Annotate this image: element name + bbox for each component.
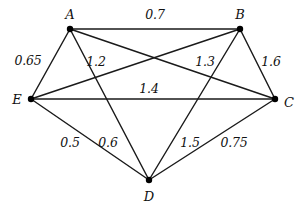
weighted-graph-diagram: ABCDE0.70.651.21.31.61.51.40.50.750.6 bbox=[0, 0, 306, 208]
vertex-dot-a bbox=[67, 26, 73, 32]
vertex-label-a: A bbox=[65, 8, 74, 21]
edges-group bbox=[31, 29, 275, 180]
edge-weight-a-e: 0.65 bbox=[14, 55, 41, 68]
vertex-label-c: C bbox=[284, 96, 294, 109]
vertex-label-b: B bbox=[235, 8, 245, 21]
edge-weight-c-d: 0.75 bbox=[220, 137, 247, 150]
graph-canvas bbox=[0, 0, 306, 208]
vertex-label-e: E bbox=[12, 93, 22, 106]
edge-weight-b-d: 1.5 bbox=[180, 137, 199, 150]
edge-e-d bbox=[31, 99, 149, 180]
edge-c-d bbox=[149, 99, 275, 180]
edge-weight-extra-0: 0.6 bbox=[98, 137, 117, 150]
vertex-dot-e bbox=[28, 96, 34, 102]
vertex-label-d: D bbox=[144, 190, 154, 203]
edge-weight-a-b: 0.7 bbox=[145, 9, 164, 22]
vertices-group bbox=[28, 26, 278, 183]
vertex-dot-d bbox=[146, 177, 152, 183]
vertex-dot-c bbox=[272, 96, 278, 102]
edge-weight-a-d: 1.2 bbox=[86, 56, 105, 69]
edge-weight-b-c: 1.6 bbox=[261, 56, 280, 69]
edge-b-d bbox=[149, 29, 240, 180]
vertex-dot-b bbox=[237, 26, 243, 32]
edge-weight-b-e: 1.3 bbox=[195, 56, 214, 69]
edge-weight-e-d: 0.5 bbox=[60, 137, 79, 150]
edge-weight-e-c: 1.4 bbox=[139, 83, 158, 96]
